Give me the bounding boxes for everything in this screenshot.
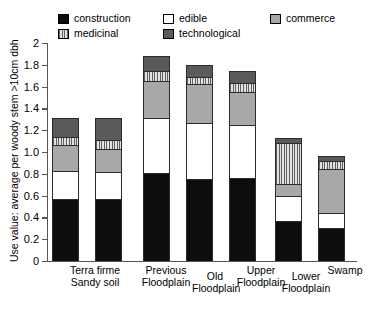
y-tick-label: 0.4 [24,212,39,223]
y-tick-label: 1.4 [24,103,39,114]
bar-segment-edible [143,118,170,173]
legend-label-medicinal: medicinal [74,28,118,39]
x-axis-label-line2: Floodplain [192,282,238,294]
y-tick-label: 0 [33,256,39,267]
bar-segment-medicinal [95,140,122,149]
bar-segment-commerce [229,92,256,125]
bar-segment-medicinal [229,83,256,92]
bar-group [47,43,357,261]
legend-label-construction: construction [74,13,131,24]
x-axis-label-1: Terra firmeSandy soil [52,264,138,288]
bar-segment-construction [186,179,213,261]
bar-2 [95,118,122,261]
x-axis-label-6: Swamp [321,264,369,276]
bar-7 [318,156,345,261]
bar-segment-technological [95,118,122,140]
bar-1 [52,118,79,261]
bar-3 [143,56,170,261]
bar-segment-commerce [143,81,170,118]
bar-segment-medicinal [318,161,345,170]
bar-segment-edible [95,172,122,199]
bar-segment-medicinal [143,71,170,81]
x-axis-label-line2: Floodplain [135,276,197,288]
bar-segment-commerce [186,84,213,122]
legend-label-technological: technological [179,28,240,39]
bar-segment-construction [95,199,122,261]
y-tick-label: 1.8 [24,59,39,70]
y-tick-mark [42,261,47,262]
y-axis-title: Use value: average per woody stem >10cm … [0,0,9,52]
x-axis-label-line1: Terra firme [52,264,138,276]
bar-segment-commerce [275,184,302,196]
bar-segment-construction [318,228,345,261]
y-tick-label: 1.2 [24,125,39,136]
bar-segment-commerce [52,145,79,170]
bar-segment-edible [318,213,345,228]
x-axis-label-line2: Floodplain [279,282,333,294]
x-axis-label-line1: Old [192,270,238,282]
y-tick-label: 1.0 [24,147,39,158]
x-axis-label-line2: Sandy soil [52,276,138,288]
legend-label-edible: edible [179,13,207,24]
x-axis-label-line1: Swamp [321,264,369,276]
bar-segment-medicinal [275,143,302,183]
legend-column-3: commerce [270,12,335,27]
legend-item-commerce: commerce [270,12,335,25]
bar-segment-construction [229,178,256,261]
x-axis-line [47,261,357,262]
legend-item-technological: technological [163,27,240,40]
bar-segment-construction [275,221,302,261]
y-tick-label: 1.6 [24,81,39,92]
bar-segment-medicinal [186,77,213,85]
y-tick-label: 0.6 [24,190,39,201]
legend-item-construction: construction [58,12,131,25]
bar-segment-construction [143,173,170,261]
legend-label-commerce: commerce [286,13,335,24]
bar-segment-technological [186,65,213,77]
y-tick-label: 0.8 [24,168,39,179]
bar-segment-construction [52,199,79,261]
bar-segment-edible [229,125,256,178]
bar-segment-technological [143,56,170,71]
bar-segment-edible [275,196,302,221]
bar-segment-edible [52,171,79,199]
bar-segment-edible [186,123,213,180]
legend-column-1: construction medicinal [58,12,131,42]
legend-column-2: edible technological [163,12,240,42]
x-axis-label-3: OldFloodplain [192,270,238,294]
y-axis-title-text: Use value: average per woody stem >10cm … [9,52,20,262]
bar-4 [186,65,213,261]
bar-6 [275,138,302,261]
legend-swatch-technological [163,29,174,39]
bar-segment-commerce [95,149,122,172]
bar-segment-medicinal [52,137,79,146]
y-tick-label: 2 [33,38,39,49]
legend-swatch-edible [163,14,174,24]
x-axis-labels: Terra firmeSandy soilPreviousFloodplainO… [47,264,357,308]
bar-5 [229,71,256,261]
legend-swatch-commerce [270,14,281,24]
bar-segment-technological [52,118,79,137]
chart-legend: construction medicinal edible technologi… [58,12,358,40]
bar-segment-commerce [318,169,345,213]
legend-swatch-medicinal [58,29,69,39]
legend-item-medicinal: medicinal [58,27,131,40]
plot-area: 00.20.40.60.81.01.21.41.61.82 [47,43,357,261]
x-axis-label-2: PreviousFloodplain [135,264,197,288]
bar-segment-technological [229,71,256,83]
y-tick-label: 0.2 [24,234,39,245]
legend-item-edible: edible [163,12,240,25]
x-axis-label-line1: Previous [135,264,197,276]
legend-swatch-construction [58,14,69,24]
